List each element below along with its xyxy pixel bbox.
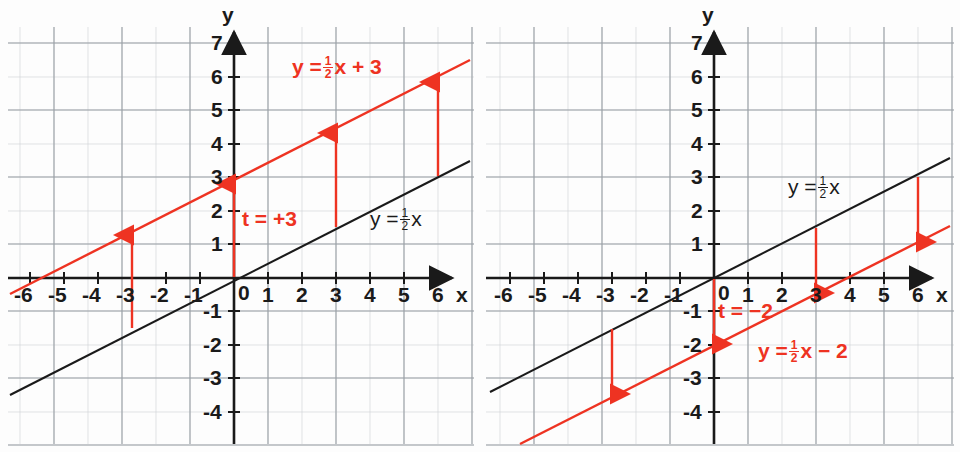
y-tick-label: 5 (691, 99, 703, 120)
plot-area-left: -6 -5 -4 -3 -2 -1 1 2 3 4 5 6 0 7 6 5 4 … (0, 0, 480, 452)
equation-lhs: y = (788, 175, 817, 198)
x-tick-label: 3 (810, 284, 822, 305)
equation-lhs: y = (370, 207, 399, 230)
x-tick-label: 5 (398, 284, 410, 305)
x-tick-label: 4 (364, 284, 376, 305)
y-tick-label: 1 (211, 233, 223, 254)
x-tick-label: -6 (494, 284, 513, 305)
y-tick-label: -4 (203, 401, 222, 422)
x-tick-label: 2 (296, 284, 308, 305)
y-axis-title: y (222, 4, 234, 25)
y-axis-right (708, 32, 720, 444)
panel-left: -6 -5 -4 -3 -2 -1 1 2 3 4 5 6 0 7 6 5 4 … (0, 0, 480, 452)
y-tick-label: -1 (683, 300, 702, 321)
y-tick-label: 3 (691, 166, 703, 187)
y-tick-label: 2 (691, 200, 703, 221)
x-tick-label: 6 (912, 284, 924, 305)
equation-lhs: y = (758, 339, 788, 362)
x-axis-title: x (936, 284, 948, 305)
x-tick-label: 3 (330, 284, 342, 305)
line-black-half-x (490, 158, 950, 392)
grid-major-right (486, 27, 954, 445)
y-tick-label: 1 (691, 233, 703, 254)
x-tick-label: 6 (432, 284, 444, 305)
equation-label-red: y =12x + 3 (292, 56, 382, 81)
y-tick-label: 7 (211, 32, 223, 53)
equation-label-red: y =12x − 2 (758, 340, 848, 365)
x-tick-label: -4 (562, 284, 581, 305)
equation-label-black: y =12x (370, 208, 422, 233)
origin-label: 0 (238, 282, 250, 303)
x-tick-label: -5 (528, 284, 547, 305)
x-tick-label: -2 (630, 284, 649, 305)
y-tick-label: 6 (691, 66, 703, 87)
x-tick-label: -1 (184, 284, 203, 305)
x-tick-label: -6 (14, 284, 33, 305)
y-tick-label: -3 (203, 367, 222, 388)
y-tick-label: 7 (691, 32, 703, 53)
y-axis-title: y (702, 4, 714, 25)
x-tick-label: -1 (664, 284, 683, 305)
fraction-one-half: 12 (818, 175, 829, 200)
x-axis-right (486, 272, 932, 284)
equation-rhs: x (829, 175, 840, 198)
x-tick-label: 5 (878, 284, 890, 305)
line-red-half-x-minus-2 (520, 226, 950, 444)
equation-rhs: x + 3 (334, 55, 381, 78)
graph-svg-right (480, 0, 960, 452)
y-tick-label: 5 (211, 99, 223, 120)
x-tick-label: 2 (776, 284, 788, 305)
y-tick-label: 4 (211, 133, 223, 154)
fraction-one-half: 12 (400, 207, 411, 232)
y-tick-label: 2 (211, 200, 223, 221)
x-tick-label: -4 (82, 284, 101, 305)
x-tick-label: -3 (116, 284, 135, 305)
equation-rhs: x − 2 (800, 339, 847, 362)
y-tick-label: 3 (211, 166, 223, 187)
panel-right: -6 -5 -4 -3 -2 -1 1 2 3 4 5 6 0 7 6 5 4 … (480, 0, 960, 452)
y-tick-label: 6 (211, 66, 223, 87)
plot-area-right: -6 -5 -4 -3 -2 -1 1 2 3 4 5 6 0 7 6 5 4 … (480, 0, 960, 452)
equation-rhs: x (411, 207, 422, 230)
y-tick-label: -2 (203, 334, 222, 355)
y-tick-label: -2 (683, 334, 702, 355)
figure-canvas: -6 -5 -4 -3 -2 -1 1 2 3 4 5 6 0 7 6 5 4 … (0, 0, 960, 452)
x-tick-label: 1 (262, 284, 274, 305)
fraction-one-half: 12 (789, 339, 800, 364)
fraction-one-half: 12 (323, 55, 334, 80)
x-axis-title: x (456, 284, 468, 305)
equation-label-black: y =12x (788, 176, 840, 201)
x-tick-label: 4 (844, 284, 856, 305)
shift-annotation: t = −2 (718, 300, 773, 321)
shift-arrows-left (132, 82, 438, 328)
y-tick-label: -1 (203, 300, 222, 321)
y-tick-label: -3 (683, 367, 702, 388)
equation-lhs: y = (292, 55, 322, 78)
shift-annotation: t = +3 (242, 208, 297, 229)
x-tick-label: -2 (150, 284, 169, 305)
grid-major-left (8, 27, 474, 445)
x-tick-label: -5 (48, 284, 67, 305)
y-tick-label: -4 (683, 401, 702, 422)
x-tick-label: -3 (596, 284, 615, 305)
y-tick-label: 4 (691, 133, 703, 154)
